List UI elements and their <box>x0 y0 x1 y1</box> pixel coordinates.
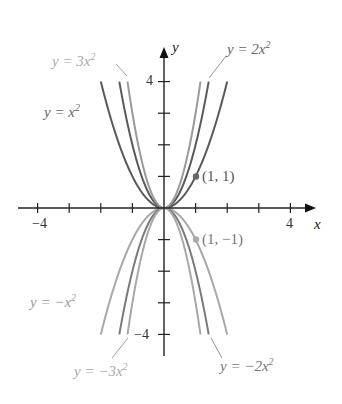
point-label-1-1: (1, 1) <box>202 168 235 185</box>
y-axis-arrow-icon <box>160 47 169 58</box>
label-2x2: y = 2x2 <box>225 39 270 57</box>
point-1-neg1 <box>193 236 199 242</box>
leader-neg3x2 <box>112 338 128 358</box>
label-x2: y = x2 <box>42 102 80 120</box>
label-negx2: y = −x2 <box>28 292 76 310</box>
leader-2x2 <box>209 56 226 78</box>
point-1-1 <box>193 173 199 179</box>
leader-neg2x2 <box>211 338 222 358</box>
y-axis-label: y <box>170 39 179 55</box>
label-3x2: y = 3x2 <box>50 51 95 69</box>
x-tick-label-neg4: −4 <box>32 216 47 231</box>
point-label-1-neg1: (1, −1) <box>202 231 243 248</box>
x-axis-arrow-icon <box>305 204 316 213</box>
label-neg3x2: y = −3x2 <box>72 361 128 379</box>
x-axis-label: x <box>313 216 321 232</box>
y-tick-label-4: 4 <box>146 73 153 88</box>
parabola-chart: −4 4 4 −4 x y (1, 1) (1, −1) y = 3x2 y =… <box>0 0 342 404</box>
x-tick-label-4: 4 <box>286 216 293 231</box>
y-tick-label-neg4: −4 <box>134 327 149 342</box>
leader-3x2 <box>116 64 127 76</box>
label-neg2x2: y = −2x2 <box>218 356 274 374</box>
